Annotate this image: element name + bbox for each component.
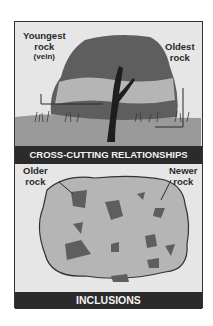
youngest-rock-label: Youngest rock (vein) <box>23 31 66 63</box>
cross-cutting-panel: Youngest rock (vein) Oldest rock CROSS-C… <box>15 22 202 164</box>
oldest-rock-label: Oldest rock <box>165 42 195 63</box>
older-rock-label: Older rock <box>23 166 48 187</box>
diagram-frame: Youngest rock (vein) Oldest rock CROSS-C… <box>14 21 203 308</box>
cross-cutting-title: CROSS-CUTTING RELATIONSHIPS <box>15 146 202 164</box>
inclusions-panel: Older rock Newer rock INCLUSIONS <box>15 164 202 307</box>
inclusions-title: INCLUSIONS <box>15 292 202 309</box>
newer-rock-label: Newer rock <box>169 166 198 187</box>
